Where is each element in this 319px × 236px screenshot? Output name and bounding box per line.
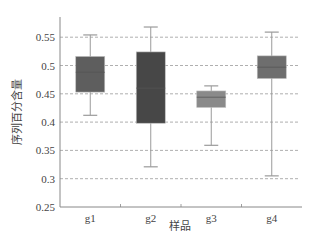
box-plot-chart: 0.250.30.350.40.450.50.55 g1g2g3g4 序列百分含… [0,0,319,236]
box-g1 [76,35,105,115]
y-axis-title: 序列百分含量 [10,79,24,145]
x-tick-label: g3 [206,212,218,224]
x-tick-label: g1 [85,212,96,224]
box-g3 [197,86,226,145]
box-g2 [136,27,165,167]
box-series [76,27,287,176]
x-tick-label: g4 [266,212,278,224]
y-tick-labels: 0.250.30.350.40.450.50.55 [36,31,56,213]
x-axis-title: 样品 [169,219,191,233]
iqr-box [136,52,165,123]
y-tick-label: 0.35 [36,144,56,156]
iqr-box [197,91,226,107]
y-tick-label: 0.45 [36,88,56,100]
box-g4 [257,32,286,176]
y-tick-label: 0.55 [36,31,56,43]
y-tick-label: 0.25 [36,201,56,213]
x-tick-label: g2 [145,212,156,224]
iqr-box [76,56,105,92]
y-tick-label: 0.3 [41,173,55,185]
y-tick-label: 0.4 [41,116,55,128]
y-tick-label: 0.5 [41,60,55,72]
